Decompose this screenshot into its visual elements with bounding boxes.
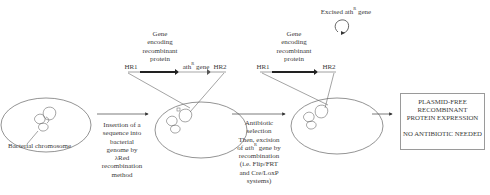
excised-gene-label: Excised athR gene (318, 8, 374, 16)
hr1-label-stage3: HR1 (256, 63, 270, 71)
chromosome-icon (35, 107, 56, 131)
gene-arrowhead-icon (314, 69, 318, 75)
hr2-crossover-line (190, 73, 224, 112)
bacterial-chromosome-label: Bacterial chromosome (8, 142, 88, 150)
ath-gene-label: athR gene (180, 63, 212, 71)
gene-arrowhead-icon (175, 69, 179, 75)
hr2-label: HR2 (212, 63, 228, 71)
hr1-crossover-line (262, 73, 328, 105)
hr2-crossover-line (325, 73, 334, 108)
gene-encoding-label-stage3: Gene encoding recombinant protein (270, 30, 318, 63)
chromosome-icon (167, 109, 192, 133)
excised-gene-circle-icon (335, 20, 348, 35)
gene-encoding-label: Gene encoding recombinant protein (136, 30, 184, 63)
hr2-label-stage3: HR2 (321, 63, 337, 71)
step2-description: Antibiotic selection Then, excision of a… (230, 119, 288, 185)
hr1-label: HR1 (124, 63, 138, 71)
gene-construct-2 (128, 69, 226, 112)
result-box: PLASMID-FREE RECOMBINANT PROTEIN EXPRESS… (400, 93, 485, 150)
step1-description: Insertion of a sequence into bacterial g… (94, 121, 150, 179)
no-antibiotic-note: NO ANTIBIOTIC NEEDED (401, 130, 484, 138)
bacterial-cell-3 (291, 98, 383, 154)
chromosome-icon (304, 105, 328, 129)
gene-construct-3 (260, 69, 336, 108)
hr1-crossover-line (128, 73, 190, 108)
